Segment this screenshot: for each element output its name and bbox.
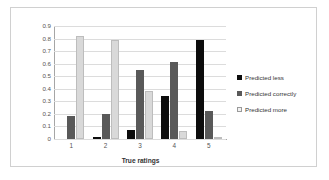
bar[interactable]	[161, 96, 169, 139]
bar-group	[123, 26, 157, 139]
bar-group	[54, 26, 88, 139]
legend-swatch-darkgray-icon	[237, 91, 242, 96]
x-axis-tick-label: 4	[157, 142, 191, 149]
y-axis: 0.90.80.70.60.50.40.30.20.10	[11, 26, 51, 139]
bar[interactable]	[136, 70, 144, 139]
legend-swatch-lightgray-icon	[237, 107, 242, 112]
chart-legend: Predicted lessPredicted correctlyPredict…	[237, 74, 317, 122]
legend-item-label: Predicted more	[245, 106, 287, 113]
y-axis-tick-label: 0	[13, 136, 51, 142]
y-axis-tick-label: 0.2	[13, 111, 51, 117]
bar-group	[157, 26, 191, 139]
y-axis-tick-label: 0.3	[13, 98, 51, 104]
legend-item-label: Predicted correctly	[245, 90, 296, 97]
x-axis-title: True ratings	[54, 157, 227, 164]
bar-group	[192, 26, 226, 139]
bar[interactable]	[67, 116, 75, 139]
legend-item[interactable]: Predicted less	[237, 74, 317, 81]
gridline	[54, 139, 226, 140]
y-axis-tick-label: 0.5	[13, 73, 51, 79]
chart-container: 0.90.80.70.60.50.40.30.20.10 12345 True …	[10, 7, 317, 167]
bar[interactable]	[179, 131, 187, 139]
y-axis-tick-label: 0.8	[13, 36, 51, 42]
x-axis-tick-label: 3	[123, 142, 157, 149]
legend-item[interactable]: Predicted correctly	[237, 90, 317, 97]
bar[interactable]	[111, 40, 119, 139]
x-axis-tick-label: 1	[54, 142, 88, 149]
y-axis-tick-label: 0.9	[13, 23, 51, 29]
legend-item[interactable]: Predicted more	[237, 106, 317, 113]
bar[interactable]	[76, 36, 84, 139]
bar[interactable]	[196, 40, 204, 139]
y-axis-tick-label: 0.1	[13, 123, 51, 129]
bar[interactable]	[170, 62, 178, 139]
x-axis-tick-label: 5	[192, 142, 226, 149]
bar[interactable]	[93, 137, 101, 140]
bar[interactable]	[102, 114, 110, 139]
x-axis: 12345	[54, 142, 227, 154]
y-axis-tick-label: 0.4	[13, 86, 51, 92]
bar[interactable]	[214, 137, 222, 139]
legend-item-label: Predicted less	[245, 74, 284, 81]
bar-group	[88, 26, 122, 139]
plot-area	[54, 26, 226, 139]
y-axis-tick-label: 0.6	[13, 61, 51, 67]
bar[interactable]	[127, 130, 135, 139]
y-axis-tick-label: 0.7	[13, 48, 51, 54]
bar[interactable]	[205, 111, 213, 139]
x-axis-tick-label: 2	[89, 142, 123, 149]
legend-swatch-black-icon	[237, 75, 242, 80]
bar[interactable]	[145, 91, 153, 139]
